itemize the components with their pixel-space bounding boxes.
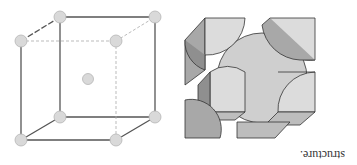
caption: structure. <box>300 147 345 162</box>
figure: structure. <box>0 0 357 165</box>
space-filling-model <box>185 18 315 138</box>
crystal-structure-figure <box>0 0 357 165</box>
